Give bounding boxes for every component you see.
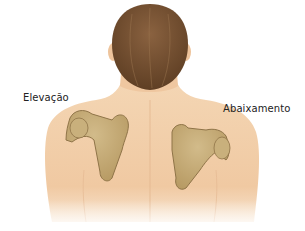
label-depression: Abaixamento (223, 103, 291, 114)
label-elevation: Elevação (23, 92, 69, 103)
back-illustration (0, 0, 305, 231)
scapula-movement-diagram: Elevação Abaixamento (0, 0, 305, 231)
